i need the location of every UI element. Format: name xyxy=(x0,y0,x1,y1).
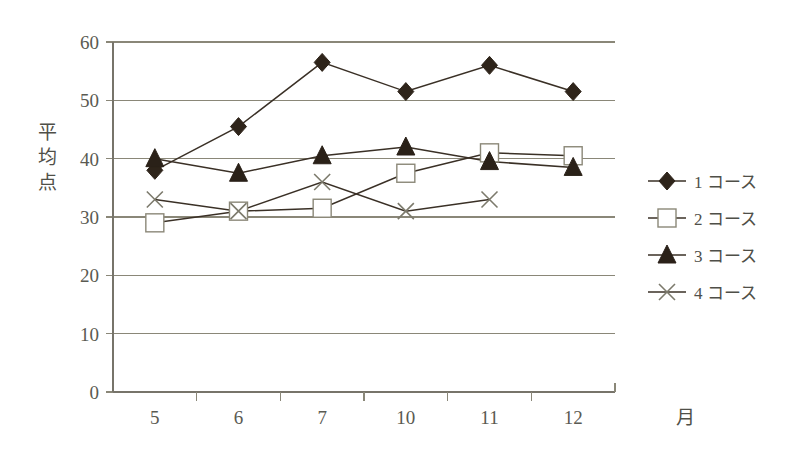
marker-square xyxy=(658,209,676,227)
marker-diamond xyxy=(482,56,498,74)
marker-triangle xyxy=(146,149,164,167)
marker-diamond xyxy=(231,118,247,136)
y-tick-label: 40 xyxy=(80,149,99,170)
series-line xyxy=(155,147,573,173)
y-tick-label: 60 xyxy=(80,32,99,53)
gridlines-group xyxy=(106,42,615,392)
chart-container: 平 均 点 0102030405060 567101112 1 コース2 コース… xyxy=(0,0,805,469)
y-tick-label: 20 xyxy=(80,265,99,286)
marker-diamond xyxy=(565,83,581,101)
marker-diamond xyxy=(314,53,330,71)
marker-triangle xyxy=(658,245,676,263)
y-tick-label: 50 xyxy=(80,90,99,111)
legend: 1 コース2 コース3 コース4 コース xyxy=(648,172,757,303)
legend-item-label: 3 コース xyxy=(694,247,757,266)
x-tick-label: 5 xyxy=(150,407,160,428)
marker-x xyxy=(147,192,163,208)
x-tick-label: 6 xyxy=(234,407,244,428)
legend-item-label: 4 コース xyxy=(694,284,757,303)
y-tick-label: 30 xyxy=(80,207,99,228)
y-tick-label: 0 xyxy=(90,382,100,403)
series-markers-group xyxy=(146,53,582,231)
legend-item-label: 2 コース xyxy=(694,210,757,229)
x-tick-label: 11 xyxy=(480,407,498,428)
x-axis-tick-labels: 567101112 xyxy=(150,407,583,428)
marker-diamond xyxy=(659,172,675,190)
x-axis-tick-marks xyxy=(197,392,532,401)
marker-triangle xyxy=(397,137,415,155)
x-tick-label: 7 xyxy=(317,407,327,428)
marker-x xyxy=(482,192,498,208)
x-tick-label: 12 xyxy=(564,407,583,428)
series-lines-group xyxy=(155,62,573,222)
marker-diamond xyxy=(398,83,414,101)
x-tick-label: 10 xyxy=(396,407,415,428)
marker-x xyxy=(314,174,330,190)
marker-square xyxy=(146,214,164,232)
y-axis-tick-labels: 0102030405060 xyxy=(80,32,99,403)
line-chart: 0102030405060 567101112 1 コース2 コース3 コース4… xyxy=(0,0,805,469)
marker-square xyxy=(397,164,415,182)
legend-item-label: 1 コース xyxy=(694,173,757,192)
marker-square xyxy=(313,199,331,217)
x-axis-unit-label: 月 xyxy=(676,407,695,428)
y-tick-label: 10 xyxy=(80,324,99,345)
